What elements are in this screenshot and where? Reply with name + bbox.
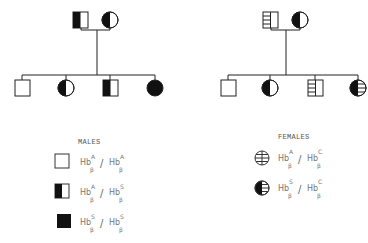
pedigree-family-1 <box>15 12 163 96</box>
svg-text:A: A <box>91 153 96 160</box>
svg-text:β: β <box>90 166 94 174</box>
legend-symbol-square-left-filled <box>55 184 69 198</box>
svg-text:/: / <box>298 184 302 195</box>
svg-text:β: β <box>90 196 94 204</box>
svg-text:β: β <box>90 226 94 234</box>
pedigree-diagram: MALES Hb A β / Hb A β Hb A β / Hb S β <box>0 0 368 243</box>
child-square-normal <box>15 80 30 96</box>
svg-text:β: β <box>119 226 123 234</box>
svg-text:/: / <box>100 218 104 229</box>
svg-text:/: / <box>100 158 104 169</box>
legend-genotype-sc: Hb S β / Hb C β <box>278 178 322 200</box>
legend-females-title: FEMALES <box>278 133 310 141</box>
child-circle-heterozygous-as <box>58 80 74 96</box>
legend-males-title: MALES <box>78 138 101 146</box>
svg-text:β: β <box>317 192 321 200</box>
child-square-heterozygous-as <box>103 80 118 96</box>
mother-circle-heterozygous-as <box>292 12 308 28</box>
child-circle-homozygous-ss <box>147 80 163 96</box>
svg-text:S: S <box>289 178 293 185</box>
legend-males: MALES Hb A β / Hb A β Hb A β / Hb S β <box>55 138 125 234</box>
svg-text:/: / <box>100 188 104 199</box>
legend-females: FEMALES Hb A β / Hb C β Hb <box>255 133 322 200</box>
svg-text:C: C <box>318 178 322 185</box>
child-square-normal <box>221 80 236 96</box>
svg-text:β: β <box>288 192 292 200</box>
svg-text:β: β <box>317 162 321 170</box>
father-square-heterozygous-as <box>73 12 88 28</box>
svg-text:β: β <box>288 162 292 170</box>
svg-text:C: C <box>318 148 322 155</box>
legend-genotype-ss: Hb S β / Hb S β <box>80 213 124 234</box>
legend-symbol-square-filled <box>57 214 71 228</box>
legend-symbol-square-empty <box>55 154 69 168</box>
legend-symbol-circle-striped <box>255 151 269 165</box>
svg-text:S: S <box>120 183 124 190</box>
mother-circle-heterozygous-as <box>102 12 118 28</box>
svg-text:S: S <box>91 213 95 220</box>
svg-text:/: / <box>298 154 302 165</box>
legend-genotype-ac: Hb A β / Hb C β <box>278 148 322 170</box>
legend-symbol-circle-left-filled-right-striped <box>255 181 269 195</box>
pedigree-family-2 <box>221 12 366 96</box>
svg-text:A: A <box>289 148 294 155</box>
svg-text:A: A <box>120 153 125 160</box>
svg-text:β: β <box>119 196 123 204</box>
svg-text:S: S <box>120 213 124 220</box>
father-square-heterozygous-ac <box>263 12 278 28</box>
child-circle-compound-sc <box>350 80 366 96</box>
child-circle-heterozygous-as <box>262 80 278 96</box>
svg-text:β: β <box>119 166 123 174</box>
child-square-heterozygous-ac <box>308 80 323 96</box>
legend-genotype-as: Hb A β / Hb S β <box>80 183 124 204</box>
svg-text:A: A <box>91 183 96 190</box>
legend-genotype-aa: Hb A β / Hb A β <box>80 153 125 174</box>
